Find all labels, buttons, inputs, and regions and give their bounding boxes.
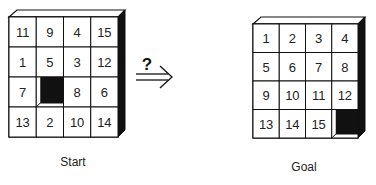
transition-arrow: ?	[136, 55, 172, 88]
goal-tile-number: 13	[259, 117, 273, 132]
start-tile-number: 6	[101, 85, 108, 100]
start-tile-number: 9	[46, 25, 53, 40]
goal-tile-number: 6	[289, 60, 296, 75]
goal-tile-number: 3	[315, 31, 322, 46]
double-right-arrow-icon	[160, 66, 172, 88]
goal-tile-number: 8	[341, 60, 348, 75]
goal-tile-number: 2	[289, 31, 296, 46]
start-label: Start	[60, 155, 86, 169]
goal-label: Goal	[291, 160, 316, 174]
question-mark: ?	[142, 55, 152, 74]
fifteen-puzzle-diagram: 119415153127861321014 ? 1234567891011121…	[0, 0, 376, 185]
start-tile-number: 12	[97, 55, 111, 70]
goal-tile-number: 4	[341, 31, 348, 46]
start-tile-number: 15	[97, 25, 111, 40]
goal-tile-number: 9	[263, 88, 270, 103]
goal-tile-number: 12	[338, 88, 352, 103]
start-tile-number: 5	[46, 55, 53, 70]
start-tile-number: 13	[15, 115, 29, 130]
goal-tile-number: 11	[312, 88, 326, 103]
start-board: 119415153127861321014	[9, 10, 125, 137]
start-tile-number: 3	[74, 55, 81, 70]
goal-tile-number: 10	[285, 88, 299, 103]
goal-hole	[336, 110, 358, 135]
goal-tile-number: 14	[285, 117, 299, 132]
start-tile-number: 11	[16, 25, 30, 40]
start-tile-number: 2	[46, 115, 53, 130]
start-tile-number: 14	[97, 115, 111, 130]
start-tile-number: 8	[74, 85, 81, 100]
goal-tile-number: 5	[263, 60, 270, 75]
goal-tile-number: 7	[315, 60, 322, 75]
start-hole	[40, 77, 63, 103]
start-tile-number: 4	[74, 25, 81, 40]
goal-tile-number: 1	[263, 31, 270, 46]
start-tile-number: 7	[19, 85, 26, 100]
start-tile-number: 10	[70, 115, 84, 130]
goal-board: 123456789101112131415	[253, 17, 365, 138]
start-tile-number: 1	[19, 55, 26, 70]
goal-tile-number: 15	[311, 117, 325, 132]
